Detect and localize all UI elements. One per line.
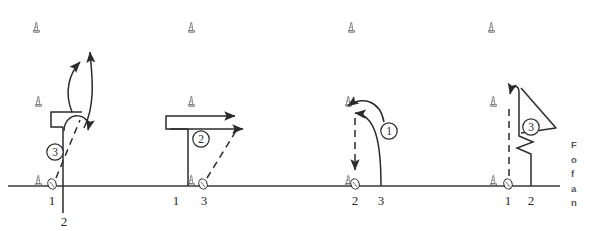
cone-row-bottom xyxy=(35,175,497,185)
cone-icon xyxy=(188,96,195,106)
cone-icon xyxy=(35,175,42,185)
caption-clipped-text: F o f a n xyxy=(571,138,591,218)
step-badge-label: 3 xyxy=(52,146,58,158)
step-badge-label: 1 xyxy=(386,125,392,137)
ball-icon xyxy=(502,178,513,190)
panel-4-paths: 3 1 2 xyxy=(502,87,556,208)
position-label: 1 xyxy=(173,193,180,208)
cone-icon xyxy=(188,175,195,185)
ball-icon xyxy=(197,178,208,190)
position-label: 2 xyxy=(61,214,68,229)
panel-3-paths: 1 2 3 xyxy=(348,101,397,208)
step-badge-label: 3 xyxy=(528,121,534,133)
ball-icon xyxy=(46,178,57,190)
position-label: 3 xyxy=(201,193,208,208)
panel-2-paths: 2 1 3 xyxy=(166,116,243,208)
cone-icon xyxy=(488,22,495,32)
drill-diagram-figure: 3 1 2 2 1 3 xyxy=(0,0,591,231)
position-label: 2 xyxy=(528,193,535,208)
cone-icon xyxy=(33,22,40,32)
caption-line: a xyxy=(571,182,591,197)
caption-line: n xyxy=(571,196,591,211)
step-badge-label: 2 xyxy=(198,133,204,145)
caption-line: f xyxy=(571,167,591,182)
cone-icon xyxy=(188,22,195,32)
cone-row-top xyxy=(33,22,495,32)
position-label: 2 xyxy=(352,193,359,208)
cone-row-middle xyxy=(35,96,497,106)
drill-diagram-svg: 3 1 2 2 1 3 xyxy=(0,0,591,231)
cone-icon xyxy=(490,96,497,106)
cone-icon xyxy=(348,22,355,32)
position-label: 3 xyxy=(378,193,385,208)
panel-1-paths: 3 1 2 xyxy=(46,52,92,229)
ball-icon xyxy=(349,178,360,190)
cone-icon xyxy=(35,96,42,106)
caption-line: o xyxy=(571,153,591,168)
position-label: 1 xyxy=(505,193,512,208)
cone-icon xyxy=(490,175,497,185)
position-label: 1 xyxy=(49,193,56,208)
caption-line: F xyxy=(571,138,591,153)
